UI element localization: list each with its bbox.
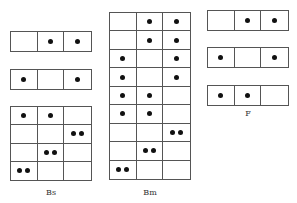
grid-cell: [208, 11, 235, 30]
dot-icon: [120, 93, 125, 98]
dot-icon: [120, 75, 125, 80]
dot-icon: [21, 113, 26, 118]
dot-icon: [245, 93, 250, 98]
dot-icon: [174, 19, 179, 24]
grid-cell: [163, 13, 190, 31]
dot-icon: [48, 39, 53, 44]
dot-icon: [52, 150, 57, 155]
grid-cell: [38, 144, 65, 162]
grid-cell: [11, 144, 38, 162]
grid-cell: [38, 107, 65, 125]
dot-icon: [174, 38, 179, 43]
dot-icon: [75, 39, 80, 44]
dot-icon: [25, 168, 30, 173]
grid-cell: [11, 70, 38, 89]
dot-icon: [147, 19, 152, 24]
dot-icon: [218, 55, 223, 60]
grid-cell: [208, 48, 235, 67]
grid-cell: [137, 68, 164, 86]
dot-icon: [120, 111, 125, 116]
f-row-3: [207, 85, 289, 106]
grid-cell: [110, 13, 137, 31]
label-f: F: [245, 109, 251, 118]
dot-icon: [143, 148, 148, 153]
grid-cell: [137, 13, 164, 31]
bs-grid: [10, 106, 92, 181]
dot-icon: [71, 131, 76, 136]
grid-cell: [208, 86, 235, 105]
grid-cell: [11, 125, 38, 143]
grid-cell: [38, 162, 65, 180]
grid-cell: [110, 87, 137, 105]
f-row-1: [207, 10, 289, 31]
dot-icon: [174, 75, 179, 80]
dot-icon: [151, 148, 156, 153]
dot-icon: [79, 131, 84, 136]
grid-cell: [163, 31, 190, 49]
grid-cell: [38, 70, 65, 89]
grid-cell: [137, 124, 164, 142]
left-row-1: [10, 31, 92, 52]
grid-cell: [110, 142, 137, 160]
grid-cell: [11, 32, 38, 51]
grid-cell: [163, 161, 190, 179]
grid-cell: [137, 31, 164, 49]
dot-icon: [17, 168, 22, 173]
grid-cell: [163, 124, 190, 142]
dot-icon: [44, 150, 49, 155]
grid-cell: [137, 87, 164, 105]
grid-cell: [110, 161, 137, 179]
grid-cell: [163, 142, 190, 160]
dot-icon: [218, 93, 223, 98]
grid-cell: [163, 50, 190, 68]
dot-icon: [272, 55, 277, 60]
grid-cell: [110, 50, 137, 68]
dot-icon: [178, 130, 183, 135]
grid-cell: [261, 48, 288, 67]
grid-cell: [110, 105, 137, 123]
grid-cell: [163, 105, 190, 123]
left-row-2: [10, 69, 92, 90]
grid-cell: [137, 142, 164, 160]
grid-cell: [110, 68, 137, 86]
dot-icon: [170, 130, 175, 135]
grid-cell: [64, 70, 91, 89]
dot-icon: [147, 93, 152, 98]
grid-cell: [235, 86, 262, 105]
grid-cell: [110, 124, 137, 142]
bm-grid: [109, 12, 191, 180]
grid-cell: [137, 161, 164, 179]
grid-cell: [38, 32, 65, 51]
grid-cell: [64, 144, 91, 162]
f-row-2: [207, 47, 289, 68]
grid-cell: [64, 107, 91, 125]
grid-cell: [235, 11, 262, 30]
grid-cell: [235, 48, 262, 67]
dot-icon: [124, 167, 129, 172]
dot-icon: [272, 18, 277, 23]
grid-cell: [110, 31, 137, 49]
dot-icon: [174, 56, 179, 61]
grid-cell: [163, 68, 190, 86]
grid-cell: [64, 162, 91, 180]
grid-cell: [137, 50, 164, 68]
grid-cell: [11, 107, 38, 125]
label-bs: Bs: [46, 188, 56, 197]
label-bm: Bm: [143, 188, 156, 197]
grid-cell: [38, 125, 65, 143]
dot-icon: [116, 167, 121, 172]
grid-cell: [11, 162, 38, 180]
dot-icon: [120, 56, 125, 61]
grid-cell: [261, 86, 288, 105]
dot-icon: [245, 18, 250, 23]
dot-icon: [147, 38, 152, 43]
grid-cell: [261, 11, 288, 30]
grid-cell: [137, 105, 164, 123]
grid-cell: [163, 87, 190, 105]
dot-icon: [147, 111, 152, 116]
grid-cell: [64, 32, 91, 51]
dot-icon: [48, 113, 53, 118]
dot-icon: [75, 77, 80, 82]
grid-cell: [64, 125, 91, 143]
dot-icon: [21, 77, 26, 82]
